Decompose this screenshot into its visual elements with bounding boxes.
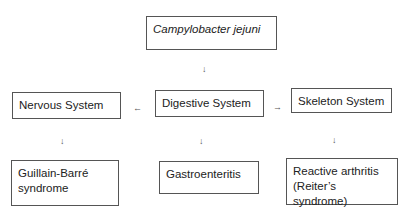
node-label-line-2: syndrome: [18, 181, 112, 196]
node-label: Digestive System: [162, 97, 251, 109]
arrow-down-icon: ↓: [199, 136, 204, 146]
node-label-line-1: Guillain-Barré: [18, 166, 112, 181]
node-digestive-system: Digestive System: [155, 90, 264, 117]
arrow-left-icon: ←: [133, 103, 142, 113]
arrow-down-icon: ↓: [202, 64, 207, 74]
node-reactive-arthritis: Reactive arthritis (Reiter’s syndrome): [286, 158, 398, 205]
node-label-line-1: Reactive arthritis: [293, 164, 391, 179]
node-label-line-2: (Reiter’s syndrome): [293, 179, 391, 209]
node-label: Gastroenteritis: [166, 168, 241, 180]
node-campylobacter-jejuni: Campylobacter jejuni: [146, 16, 277, 50]
node-label: Nervous System: [19, 99, 103, 111]
arrow-down-icon: ↓: [332, 135, 337, 145]
node-nervous-system: Nervous System: [12, 92, 121, 119]
node-label: Campylobacter jejuni: [153, 23, 260, 35]
node-skeleton-system: Skeleton System: [291, 88, 392, 113]
arrow-down-icon: ↓: [60, 136, 65, 146]
node-label: Skeleton System: [298, 95, 384, 107]
arrow-right-icon: →: [273, 102, 282, 112]
node-guillain-barre-syndrome: Guillain-Barré syndrome: [11, 160, 119, 206]
node-gastroenteritis: Gastroenteritis: [159, 161, 259, 194]
